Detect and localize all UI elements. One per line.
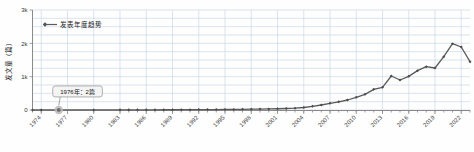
x-tick-label: 1980 bbox=[81, 114, 95, 128]
y-axis-ticks: 01k2k3k bbox=[21, 7, 32, 113]
x-tick-label: 2016 bbox=[396, 114, 410, 128]
x-tick-label: 1992 bbox=[186, 114, 200, 128]
highlight-point-icon bbox=[57, 108, 61, 112]
data-point-marker[interactable] bbox=[294, 107, 297, 110]
x-tick-label: 2022 bbox=[448, 114, 462, 128]
x-tick-label: 2007 bbox=[317, 114, 331, 128]
chart-legend[interactable]: 发表年度趋势 bbox=[43, 20, 102, 29]
x-tick-label: 2010 bbox=[343, 114, 357, 128]
x-tick-label: 2019 bbox=[422, 114, 436, 128]
chart-svg: 01k2k3k 19741977198019831986198919921995… bbox=[0, 0, 474, 152]
data-point-marker[interactable] bbox=[302, 106, 305, 109]
y-tick-label: 2k bbox=[21, 41, 28, 47]
x-axis-ticks: 1974197719801983198619891992199519982001… bbox=[28, 110, 470, 128]
data-point-marker[interactable] bbox=[337, 100, 340, 103]
x-tick-label: 1989 bbox=[160, 114, 174, 128]
y-axis-title: 发文量（篇） bbox=[4, 39, 13, 81]
data-point-marker[interactable] bbox=[320, 104, 323, 107]
x-tick-label: 2004 bbox=[291, 114, 305, 128]
data-point-marker[interactable] bbox=[285, 107, 288, 110]
x-tick-label: 1986 bbox=[133, 114, 147, 128]
callout-label: 1976年：2篇 bbox=[60, 88, 95, 96]
data-point-marker[interactable] bbox=[311, 105, 314, 108]
x-tick-label: 1983 bbox=[107, 114, 121, 128]
x-tick-label: 1977 bbox=[55, 114, 69, 128]
y-tick-label: 0 bbox=[24, 107, 28, 113]
x-tick-label: 2001 bbox=[265, 114, 279, 128]
y-tick-label: 1k bbox=[21, 74, 28, 80]
x-tick-label: 1974 bbox=[28, 114, 42, 128]
x-tick-label: 1998 bbox=[238, 114, 252, 128]
x-tick-label: 2013 bbox=[370, 114, 384, 128]
data-point-marker[interactable] bbox=[329, 102, 332, 105]
callout-stem-icon bbox=[59, 97, 61, 106]
legend-label: 发表年度趋势 bbox=[60, 20, 102, 29]
data-point-marker[interactable] bbox=[346, 99, 349, 102]
x-tick-label: 1995 bbox=[212, 114, 226, 128]
y-tick-label: 3k bbox=[21, 7, 28, 13]
publication-trend-chart: 01k2k3k 19741977198019831986198919921995… bbox=[0, 0, 474, 152]
